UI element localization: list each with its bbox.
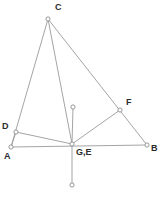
segment-GE-F: [72, 110, 120, 144]
geometry-canvas: [0, 0, 161, 202]
vertex-d: [14, 130, 18, 134]
vertex-b: [145, 143, 149, 147]
label-b: B: [151, 144, 158, 153]
label-a: A: [4, 152, 11, 161]
vertex-p2: [70, 183, 74, 187]
vertex-c: [46, 17, 50, 21]
segment-P1-GE: [72, 107, 73, 144]
segment-D-GE: [16, 132, 72, 144]
label-c: C: [55, 3, 62, 12]
label-ge: G,E: [76, 148, 92, 157]
vertex-a: [9, 145, 13, 149]
label-d: D: [2, 122, 9, 131]
vertex-ge: [70, 142, 74, 146]
geometry-figure: CFDG,EAB: [0, 0, 161, 202]
vertex-f: [118, 108, 122, 112]
label-f: F: [126, 98, 132, 107]
segment-C-A: [11, 19, 48, 147]
segment-C-GE: [48, 19, 72, 144]
vertex-p1: [71, 105, 75, 109]
